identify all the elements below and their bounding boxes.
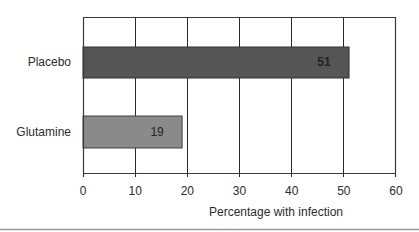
x-tick-label: 20 bbox=[181, 184, 195, 198]
category-label-placebo: Placebo bbox=[28, 55, 72, 69]
bar-glutamine bbox=[83, 116, 182, 148]
x-axis-title: Percentage with infection bbox=[209, 205, 343, 219]
x-tick-label: 30 bbox=[233, 184, 247, 198]
x-tick-label: 60 bbox=[389, 184, 403, 198]
x-tick-label: 0 bbox=[80, 184, 87, 198]
x-tick-label: 10 bbox=[128, 184, 142, 198]
data-label-placebo: 51 bbox=[317, 55, 331, 69]
category-label-glutamine: Glutamine bbox=[16, 125, 71, 139]
bar-chart: 51 19 Placebo Glutamine 0102030405060 Pe… bbox=[0, 0, 419, 232]
x-tick-label: 40 bbox=[285, 184, 299, 198]
x-axis-tick-labels: 0102030405060 bbox=[80, 184, 403, 198]
x-tick-label: 50 bbox=[337, 184, 351, 198]
data-label-glutamine: 19 bbox=[150, 125, 164, 139]
bar-placebo bbox=[83, 47, 349, 78]
